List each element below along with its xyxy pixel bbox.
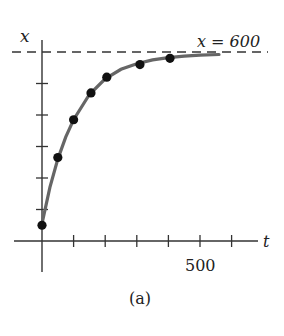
data-point xyxy=(86,88,95,97)
figure-caption: (a) xyxy=(129,289,151,308)
data-points xyxy=(37,54,174,230)
data-point xyxy=(69,115,78,124)
x-tick-label-500: 500 xyxy=(185,256,216,275)
data-point xyxy=(53,153,62,162)
data-point xyxy=(135,60,144,69)
y-axis-label: x xyxy=(20,26,30,46)
data-point xyxy=(165,54,174,63)
data-point xyxy=(37,221,46,230)
asymptote-label: x = 600 xyxy=(197,32,260,51)
data-point xyxy=(102,73,111,82)
fitted-curve xyxy=(42,55,219,224)
x-axis-label: t xyxy=(263,232,270,251)
chart: x t 500 x = 600 (a) xyxy=(0,0,284,336)
